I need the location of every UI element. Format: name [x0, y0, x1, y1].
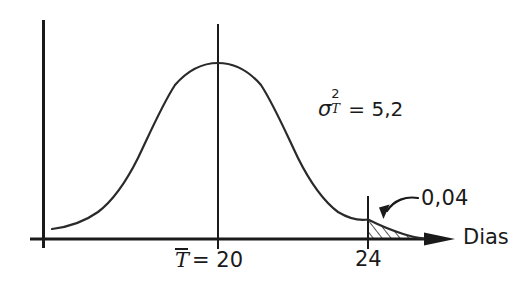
mean-tick-label: T= 20: [175, 249, 243, 271]
variance-annotation: σ2T= 5,2: [318, 95, 403, 120]
distribution-diagram: [0, 0, 523, 284]
tail-area-annotation: 0,04: [421, 188, 469, 209]
mean-variable-symbol: T: [175, 249, 189, 271]
sigma-indices: 2T: [331, 95, 344, 116]
mean-value: = 20: [192, 248, 243, 272]
tail-callout-arrow: [379, 198, 418, 219]
threshold-tick-label: 24: [355, 249, 382, 270]
sigma-subscript: T: [331, 102, 340, 115]
x-axis-title: Dias: [463, 227, 509, 248]
sigma-superscript: 2: [331, 87, 339, 100]
variance-value: = 5,2: [348, 97, 403, 121]
figure-root: σ2T= 5,2 0,04 Dias T= 20 24: [0, 0, 523, 284]
sigma-symbol: σ: [318, 97, 331, 121]
x-axis-arrowhead: [424, 233, 455, 246]
